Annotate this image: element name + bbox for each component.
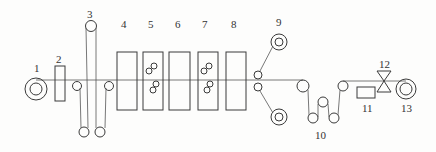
label-9: 9 <box>276 16 282 28</box>
label-2: 2 <box>56 53 62 65</box>
rewind-reel-13 <box>396 79 416 99</box>
festoon-3 <box>73 21 114 138</box>
unwind-reel-1 <box>25 78 47 100</box>
label-12: 12 <box>379 58 390 70</box>
label-4: 4 <box>121 18 127 30</box>
tank-4 <box>117 52 137 110</box>
unit-2-box <box>55 66 65 101</box>
label-6: 6 <box>175 18 181 30</box>
label-13: 13 <box>401 102 413 114</box>
tank-5 <box>143 52 163 110</box>
tank-6 <box>169 52 190 110</box>
label-10: 10 <box>315 129 327 141</box>
unit-11-box <box>357 87 375 98</box>
label-5: 5 <box>148 18 154 30</box>
label-1: 1 <box>34 62 40 74</box>
process-diagram: 1 2 3 4 5 6 7 8 <box>0 0 436 152</box>
cutter-12 <box>377 71 391 92</box>
label-7: 7 <box>202 18 208 30</box>
dancer-10 <box>297 80 406 123</box>
tank-7 <box>198 52 218 110</box>
diagram-svg: 1 2 3 4 5 6 7 8 <box>0 0 436 152</box>
label-11: 11 <box>362 102 373 114</box>
twin-reels-9 <box>254 34 287 125</box>
label-3: 3 <box>87 8 93 20</box>
label-8: 8 <box>231 18 237 30</box>
tank-8 <box>226 52 246 110</box>
